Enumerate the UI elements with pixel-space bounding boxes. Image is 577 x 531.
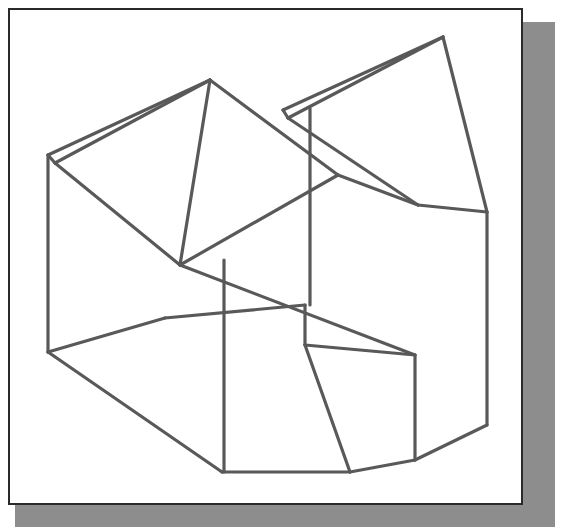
edge-channel-face-edge xyxy=(305,345,350,472)
screenshot-root xyxy=(0,0,577,531)
edge-right-inner-long-slope xyxy=(418,205,487,212)
edge-left-back-slope xyxy=(55,163,180,265)
edge-left-front-lower-bevel xyxy=(48,352,222,472)
edge-channel-upper-slope xyxy=(180,265,415,355)
edge-right-upper-bevel-edge xyxy=(443,37,487,212)
edge-left-peak-to-valley xyxy=(180,80,210,265)
edge-bottom-right-step-edge xyxy=(350,460,415,472)
edge-top-ridge-left-back xyxy=(55,80,210,163)
edge-top-ridge-right-back xyxy=(288,37,443,118)
edge-bottom-right-bevel-edge xyxy=(415,425,487,460)
edge-left-face-vertical xyxy=(48,318,165,352)
isometric-figure xyxy=(0,0,577,531)
edge-valley-rise-to-mid xyxy=(180,175,338,265)
edge-channel-floor-front xyxy=(165,305,305,318)
